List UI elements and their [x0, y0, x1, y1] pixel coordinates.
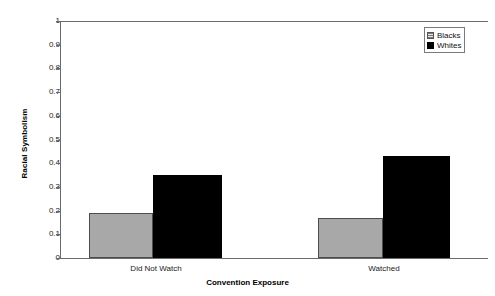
legend-label-blacks: Blacks — [437, 31, 461, 40]
y-tick-label: 0.4 — [8, 159, 60, 167]
y-tick-label: 0.8 — [8, 64, 60, 72]
bar-chart: Racial Symbolism 1 0.9 0.8 0.7 0.6 0.5 0… — [0, 0, 495, 296]
legend-label-whites: Whites — [437, 41, 461, 50]
y-tick-label: 0.1 — [8, 230, 60, 238]
y-tick-label: 0.3 — [8, 183, 60, 191]
y-tick-label: 0.5 — [8, 136, 60, 144]
y-tick-label: 0 — [8, 254, 60, 262]
x-category-label-did-not-watch: Did Not Watch — [96, 264, 216, 273]
legend-swatch-whites-icon — [427, 42, 434, 49]
y-tick-label: 0.6 — [8, 112, 60, 120]
y-tick-label: 0.2 — [8, 207, 60, 215]
x-axis-line — [60, 258, 488, 259]
legend-swatch-blacks-icon — [427, 32, 434, 39]
y-tick-label: 0.7 — [8, 88, 60, 96]
y-tick-label: 1 — [8, 17, 60, 25]
chart-legend: Blacks Whites — [424, 27, 465, 53]
legend-item-whites: Whites — [427, 40, 461, 50]
x-category-label-watched: Watched — [324, 264, 444, 273]
plot-area — [60, 21, 488, 258]
y-tick-label: 0.9 — [8, 41, 60, 49]
x-axis-title: Convention Exposure — [0, 278, 495, 287]
legend-item-blacks: Blacks — [427, 30, 461, 40]
